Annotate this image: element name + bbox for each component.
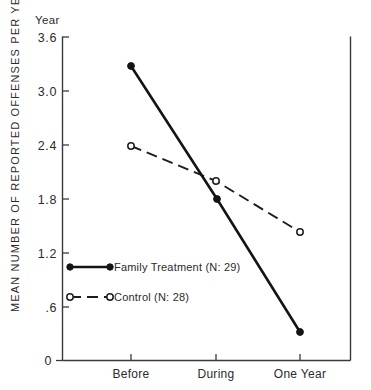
control-point-before xyxy=(128,143,134,149)
treatment-point-one-year xyxy=(297,329,304,336)
chart-legend: Family Treatment (N: 29) Control (N: 28) xyxy=(67,261,241,303)
chart-axes xyxy=(63,37,351,361)
control-line xyxy=(131,146,300,232)
y-tick-label-1.8: 1.8 xyxy=(38,193,57,207)
legend-swatch-open-marker-right xyxy=(107,294,113,300)
control-point-one-year xyxy=(297,229,303,235)
control-point-during xyxy=(213,178,219,184)
y-tick-label-1.2: 1.2 xyxy=(38,247,57,261)
legend-swatch-open-marker-left xyxy=(67,294,73,300)
treatment-point-before xyxy=(128,63,135,70)
legend-item-family-treatment[interactable]: Family Treatment (N: 29) xyxy=(67,261,241,273)
series-control xyxy=(128,143,303,235)
legend-item-control[interactable]: Control (N: 28) xyxy=(67,291,189,303)
legend-swatch-filled-marker-left xyxy=(67,264,73,270)
y-tick-label-3.6: 3.6 xyxy=(38,31,57,45)
x-axis-ticks xyxy=(131,354,300,361)
x-tick-label-before: Before xyxy=(112,367,149,381)
line-chart-canvas: 3.6 3.0 2.4 1.8 1.2 .6 0 Year MEAN NUMBE… xyxy=(0,0,371,390)
y-tick-label-0.6: .6 xyxy=(45,301,57,315)
y-tick-label-2.4: 2.4 xyxy=(38,139,57,153)
treatment-point-during xyxy=(214,196,221,203)
y-tick-label-0: 0 xyxy=(44,354,52,368)
x-tick-label-one-year: One Year xyxy=(274,367,326,381)
chart-figure: 3.6 3.0 2.4 1.8 1.2 .6 0 Year MEAN NUMBE… xyxy=(0,0,371,390)
y-tick-label-3.0: 3.0 xyxy=(38,85,57,99)
y-axis-title: MEAN NUMBER OF REPORTED OFFENSES PER YEA… xyxy=(9,0,21,312)
legend-swatch-filled-marker-right xyxy=(107,264,113,270)
legend-label-control: Control (N: 28) xyxy=(114,291,189,303)
y-axis-tick-labels: 3.6 3.0 2.4 1.8 1.2 .6 0 xyxy=(38,31,57,368)
x-tick-label-during: During xyxy=(197,367,234,381)
y-axis-unit-label: Year xyxy=(35,14,60,26)
legend-label-family-treatment: Family Treatment (N: 29) xyxy=(114,261,240,273)
x-axis-tick-labels: Before During One Year xyxy=(112,367,326,381)
